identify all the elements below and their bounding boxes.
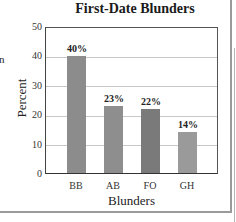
x-tick-fo: FO [135,180,165,191]
bar-gh [178,132,197,173]
bar-bb [67,56,86,173]
bar-fo [141,109,160,173]
data-label-fo: 22% [131,96,171,107]
adjacent-panel-edge [234,48,236,222]
chart-title: First-Date Blunders [40,1,230,17]
x-axis-label: Blunders [45,193,218,209]
frame-border-right [230,0,232,212]
x-tick-bb: BB [61,180,91,191]
x-tick-gh: GH [172,180,202,191]
data-label-gh: 14% [168,119,208,130]
cropped-text-fragment: n [0,53,5,65]
y-tick-40: 40 [22,50,42,61]
x-tick-ab: AB [98,180,128,191]
y-tick-0: 0 [22,168,42,179]
y-axis-label: Percent [14,68,30,128]
y-tick-10: 10 [22,139,42,150]
data-label-bb: 40% [57,43,97,54]
frame-border-bottom [0,211,232,213]
y-tick-50: 50 [22,21,42,32]
plot-area: 40% 23% 22% 14% [45,27,218,174]
data-label-ab: 23% [94,93,134,104]
bar-ab [104,106,123,173]
